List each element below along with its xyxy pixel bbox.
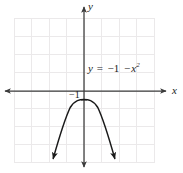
x-axis-label: x [172,85,177,96]
axes [5,7,166,167]
graph-figure: y x −1 y = −1 −x2 [0,0,183,173]
equation-label: y = −1 −x2 [88,63,140,74]
equation-exponent: 2 [136,61,140,69]
equation-constant: −1 [107,62,121,74]
tick-label-negative-one: −1 [69,90,80,100]
equation-equals: = [96,62,104,74]
equation-lhs: y [88,62,93,74]
coordinate-plane-svg [0,0,183,173]
y-axis-label: y [88,1,93,12]
